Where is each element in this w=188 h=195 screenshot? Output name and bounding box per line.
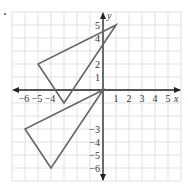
y-tick-label: −4 [89,137,100,148]
x-axis-label: x [173,93,179,104]
y-tick-label: 1 [95,72,100,83]
x-tick-label: 4 [153,93,158,104]
x-tick-label: −6 [19,93,30,104]
x-tick-label: 1 [114,93,119,104]
y-axis-label: y [106,10,112,21]
x-tick-label: 3 [140,93,145,104]
x-tick-label: −5 [32,93,43,104]
y-axis-arrow-down-icon [100,174,106,181]
x-tick-label: 5 [166,93,171,104]
x-tick-label: −4 [45,93,56,104]
y-tick-label: 4 [95,33,100,44]
y-tick-label: −5 [89,150,100,161]
coordinate-plane: −6−5−4123455421−3−4−5−6xy [0,0,188,195]
y-tick-label: −6 [89,163,100,174]
y-tick-label: −3 [89,124,100,135]
y-tick-label: 2 [95,59,100,70]
y-axis-arrow-up-icon [100,12,106,19]
x-tick-label: 2 [127,93,132,104]
y-tick-label: 5 [95,20,100,31]
